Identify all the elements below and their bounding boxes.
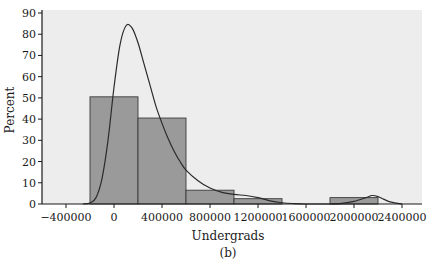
- y-ticks-group: 0102030405060708090: [22, 7, 42, 211]
- x-tick-label: 2400000: [378, 211, 427, 224]
- x-ticks-group: −400000040000080000012000001600000200000…: [40, 204, 426, 224]
- x-tick-label: 0: [111, 211, 118, 224]
- x-tick-label: 1600000: [282, 211, 331, 224]
- y-tick-label: 90: [22, 7, 36, 20]
- y-tick-label: 20: [22, 156, 36, 169]
- y-tick-label: 50: [22, 92, 36, 105]
- histogram-bar-2: [186, 190, 234, 204]
- histogram-bar-1: [138, 118, 186, 204]
- y-tick-label: 80: [22, 28, 36, 41]
- figure-caption: (b): [219, 246, 236, 260]
- x-tick-label: 400000: [141, 211, 183, 224]
- histogram-chart: 0102030405060708090 −4000000400000800000…: [0, 0, 427, 262]
- x-tick-label: 800000: [189, 211, 231, 224]
- x-axis-title: Undergrads: [192, 229, 265, 243]
- y-tick-label: 30: [22, 134, 36, 147]
- x-tick-label: 1200000: [234, 211, 283, 224]
- y-tick-label: 60: [22, 71, 36, 84]
- x-tick-label: −400000: [40, 211, 91, 224]
- histogram-bar-0: [90, 97, 138, 204]
- y-tick-label: 40: [22, 113, 36, 126]
- y-axis-title: Percent: [3, 86, 17, 133]
- y-tick-label: 10: [22, 177, 36, 190]
- histogram-bar-4: [330, 198, 378, 204]
- x-tick-label: 2000000: [330, 211, 379, 224]
- y-tick-label: 0: [29, 198, 36, 211]
- y-tick-label: 70: [22, 49, 36, 62]
